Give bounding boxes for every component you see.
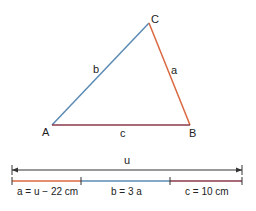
segment-b-label: b = 3 a (111, 186, 142, 197)
vertex-c-label: C (151, 13, 159, 25)
side-b (52, 23, 149, 125)
segment-c-label: c = 10 cm (185, 186, 229, 197)
total-u-label: u (124, 154, 130, 166)
side-a-label: a (171, 64, 178, 76)
triangle-diagram: A B C a b c u a = u − 22 cm b = 3 a c = … (0, 0, 256, 211)
side-a (149, 23, 190, 125)
vertex-b-label: B (189, 127, 196, 139)
side-b-label: b (93, 63, 99, 75)
arrowhead-left-icon (12, 168, 18, 173)
segment-a-label: a = u − 22 cm (17, 186, 78, 197)
side-c-label: c (120, 127, 126, 139)
vertex-a-label: A (42, 126, 50, 138)
arrowhead-right-icon (236, 168, 242, 173)
